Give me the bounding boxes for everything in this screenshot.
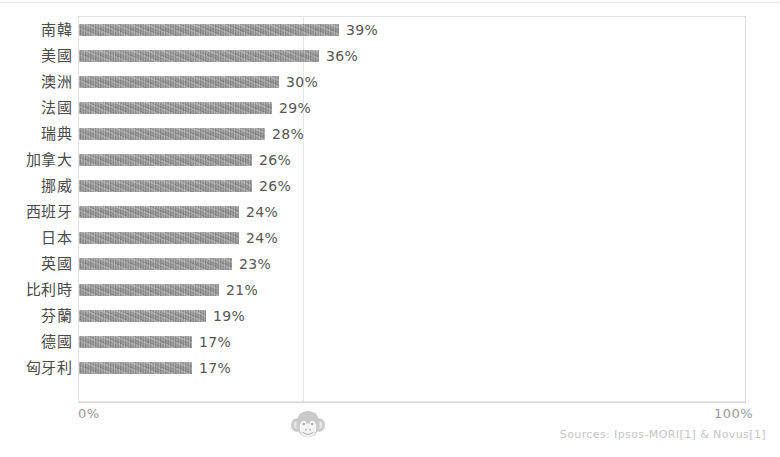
bar xyxy=(79,258,232,270)
bar xyxy=(79,232,239,244)
bar xyxy=(79,24,339,36)
chart-page: 南韓39%美國36%澳洲30%法國29%瑞典28%加拿大26%挪威26%西班牙2… xyxy=(0,0,780,457)
bar-fill xyxy=(79,362,192,374)
bar-row: 挪威26% xyxy=(0,173,780,199)
bar-fill xyxy=(79,336,192,348)
bar-category-label: 芬蘭 xyxy=(0,303,72,329)
bar-value-label: 17% xyxy=(199,355,231,381)
bar-category-label: 美國 xyxy=(0,43,72,69)
bar-category-label: 德國 xyxy=(0,329,72,355)
bar-value-label: 29% xyxy=(279,95,311,121)
bar xyxy=(79,206,239,218)
bar-value-label: 30% xyxy=(286,69,318,95)
bar-value-label: 17% xyxy=(199,329,231,355)
bar xyxy=(79,128,265,140)
bar-row: 匈牙利17% xyxy=(0,355,780,381)
bar-row: 法國29% xyxy=(0,95,780,121)
bar-fill xyxy=(79,102,272,114)
bar-fill xyxy=(79,232,239,244)
bar-fill xyxy=(79,24,339,36)
bar-row: 澳洲30% xyxy=(0,69,780,95)
bar-category-label: 英國 xyxy=(0,251,72,277)
bar-fill xyxy=(79,206,239,218)
bar-category-label: 比利時 xyxy=(0,277,72,303)
bar-row: 瑞典28% xyxy=(0,121,780,147)
bar-value-label: 26% xyxy=(259,147,291,173)
bar-row: 德國17% xyxy=(0,329,780,355)
bar-value-label: 28% xyxy=(272,121,304,147)
axis-tick-min: 0% xyxy=(78,406,100,421)
bar-category-label: 挪威 xyxy=(0,173,72,199)
bar-row: 加拿大26% xyxy=(0,147,780,173)
bar-row: 比利時21% xyxy=(0,277,780,303)
bar-fill xyxy=(79,50,319,62)
bar-row: 西班牙24% xyxy=(0,199,780,225)
bar-value-label: 39% xyxy=(346,17,378,43)
bar xyxy=(79,310,206,322)
bar-row: 日本24% xyxy=(0,225,780,251)
bar-fill xyxy=(79,128,265,140)
bar-row: 南韓39% xyxy=(0,17,780,43)
bar-value-label: 24% xyxy=(246,199,278,225)
bar-value-label: 24% xyxy=(246,225,278,251)
bar-row: 英國23% xyxy=(0,251,780,277)
bar xyxy=(79,284,219,296)
bar-value-label: 23% xyxy=(239,251,271,277)
bar xyxy=(79,154,252,166)
bar xyxy=(79,336,192,348)
bar-row: 芬蘭19% xyxy=(0,303,780,329)
scan-artifact-line xyxy=(0,2,780,3)
bar xyxy=(79,76,279,88)
bar-fill xyxy=(79,310,206,322)
bar-value-label: 21% xyxy=(226,277,258,303)
source-attribution: Sources: Ipsos-MORI[1] & Novus[1] xyxy=(0,428,766,441)
bar-category-label: 瑞典 xyxy=(0,121,72,147)
bar-category-label: 加拿大 xyxy=(0,147,72,173)
bar-value-label: 19% xyxy=(213,303,245,329)
axis-tick-max: 100% xyxy=(714,406,753,421)
bar-value-label: 26% xyxy=(259,173,291,199)
value-axis-line xyxy=(78,402,746,403)
bar xyxy=(79,50,319,62)
bar-category-label: 南韓 xyxy=(0,17,72,43)
bar-category-label: 日本 xyxy=(0,225,72,251)
bar-category-label: 匈牙利 xyxy=(0,355,72,381)
bar-fill xyxy=(79,284,219,296)
bar-row: 美國36% xyxy=(0,43,780,69)
bar-fill xyxy=(79,258,232,270)
bar-fill xyxy=(79,180,252,192)
bar-category-label: 澳洲 xyxy=(0,69,72,95)
bar-fill xyxy=(79,76,279,88)
bar-fill xyxy=(79,154,252,166)
bar xyxy=(79,180,252,192)
bar xyxy=(79,102,272,114)
bar-value-label: 36% xyxy=(326,43,358,69)
bar xyxy=(79,362,192,374)
bar-category-label: 西班牙 xyxy=(0,199,72,225)
bar-category-label: 法國 xyxy=(0,95,72,121)
